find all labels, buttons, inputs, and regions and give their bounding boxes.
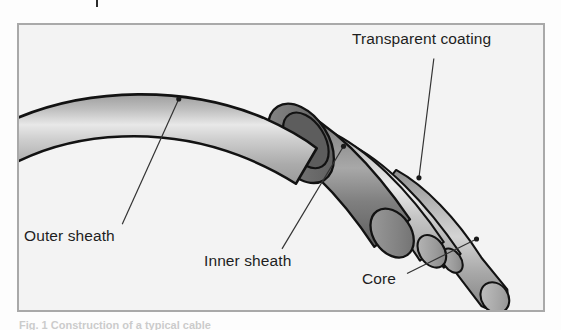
label-transparent-coating: Transparent coating bbox=[352, 31, 491, 47]
leader-transparent-coating bbox=[419, 59, 434, 178]
label-inner-sheath: Inner sheath bbox=[204, 253, 291, 269]
label-core: Core bbox=[362, 271, 396, 287]
figure-root: Transparent coating Outer sheath Inner s… bbox=[0, 0, 561, 330]
outer-sheath-body bbox=[19, 94, 317, 183]
figure-caption: Fig. 1 Construction of a typical cable bbox=[19, 319, 539, 330]
leader-dot-core bbox=[474, 236, 479, 241]
leader-dot-transparent-coating bbox=[416, 175, 421, 180]
outer-sheath bbox=[19, 94, 317, 183]
leader-dot-inner-sheath bbox=[341, 144, 346, 149]
label-outer-sheath: Outer sheath bbox=[24, 228, 115, 244]
page-crop-mark bbox=[96, 0, 98, 7]
leader-dot-outer-sheath bbox=[176, 96, 181, 101]
